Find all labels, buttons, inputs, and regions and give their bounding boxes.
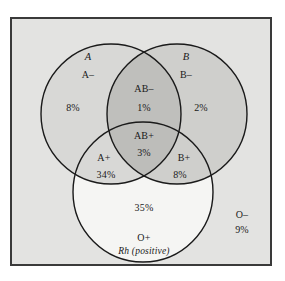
region-ab-plus-value: 3%	[137, 148, 151, 159]
region-a-only-label: A–	[82, 70, 95, 81]
region-o-plus-value: 35%	[135, 203, 154, 214]
venn-diagram-figure: A B A– 8% B– 2% AB– 1% AB+ 3% A+ 34% B+ …	[0, 0, 285, 281]
region-ab-minus-label: AB–	[134, 84, 154, 95]
region-b-only-value: 2%	[194, 103, 208, 114]
set-label-rh: Rh (positive)	[118, 247, 169, 257]
region-a-plus-label: A+	[97, 153, 110, 164]
region-ab-minus-value: 1%	[137, 103, 151, 114]
region-b-only-label: B–	[180, 70, 192, 81]
region-a-only-value: 8%	[66, 103, 80, 114]
region-o-minus-value: 9%	[235, 225, 249, 236]
region-o-plus-label: O+	[137, 233, 150, 244]
region-a-plus-value: 34%	[97, 170, 116, 181]
region-b-plus-label: B+	[178, 153, 191, 164]
region-o-minus-label: O–	[236, 210, 249, 221]
region-b-plus-value: 8%	[173, 170, 187, 181]
set-label-b: B	[183, 51, 190, 62]
region-ab-plus-label: AB+	[134, 131, 154, 142]
set-label-a: A	[85, 51, 92, 62]
